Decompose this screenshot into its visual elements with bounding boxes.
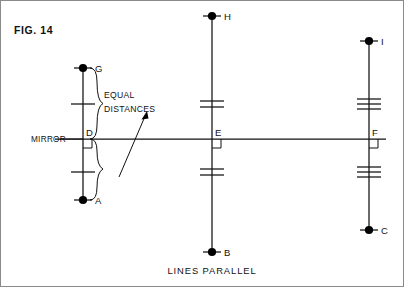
endpoint-dot-A	[79, 196, 87, 204]
point-label-F: F	[372, 127, 378, 138]
point-label-H: H	[224, 11, 231, 22]
equal-distances-arrow-shaft	[119, 114, 146, 177]
point-label-B: B	[224, 247, 231, 258]
right-angle-marker-E	[212, 139, 221, 148]
point-label-C: C	[381, 225, 388, 236]
mirror-label: MIRROR	[31, 135, 66, 144]
point-label-D: D	[86, 127, 93, 138]
endpoint-dot-B	[208, 248, 216, 256]
equal-distances-label-line1: EQUAL	[104, 90, 135, 100]
figure-canvas: FIG. 14 MIRROR EQUAL DISTANCES G A D H B…	[0, 0, 404, 287]
figure-number-label: FIG. 14	[14, 24, 53, 36]
point-label-E: E	[215, 127, 222, 138]
endpoint-dot-I	[365, 37, 373, 45]
right-angle-marker-F	[369, 139, 378, 148]
endpoint-dot-H	[208, 12, 216, 20]
endpoint-dot-C	[365, 226, 373, 234]
point-label-I: I	[381, 36, 384, 47]
figure-drawing: FIG. 14 MIRROR EQUAL DISTANCES G A D H B…	[0, 0, 404, 287]
right-angle-marker-D	[83, 139, 92, 148]
point-label-A: A	[95, 195, 102, 206]
point-label-G: G	[95, 63, 103, 74]
equal-distances-label-line2: DISTANCES	[104, 104, 155, 114]
figure-caption: LINES PARALLEL	[167, 265, 256, 276]
endpoint-dot-G	[79, 64, 87, 72]
